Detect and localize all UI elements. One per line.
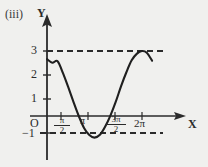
x-tick-label-pi: π xyxy=(80,116,85,126)
x-tick-3pi-over-2-numerator: 3π xyxy=(106,115,126,124)
y-tick-label-1: 1 xyxy=(31,92,37,104)
figure-label: (iii) xyxy=(5,8,23,20)
x-tick-label-2pi: 2π xyxy=(134,118,145,129)
x-tick-pi-over-2-numerator: π xyxy=(54,116,70,125)
x-axis-label: X xyxy=(188,118,197,130)
y-tick-label-2: 2 xyxy=(31,68,37,80)
origin-label: O xyxy=(30,117,39,129)
x-tick-label-3pi-over-2: 3π 2 xyxy=(106,115,126,135)
x-tick-3pi-over-2-denominator: 2 xyxy=(106,124,126,134)
x-tick-pi-over-2-denominator: 2 xyxy=(54,125,70,135)
y-axis-label: Y xyxy=(37,7,46,19)
graph-figure: (iii) Y X 3 2 1 −1 O π 2 π 3π 2 2π xyxy=(0,0,208,167)
x-tick-label-pi-over-2: π 2 xyxy=(54,116,70,136)
plot-canvas xyxy=(0,0,208,167)
y-tick-label-3: 3 xyxy=(31,44,37,56)
